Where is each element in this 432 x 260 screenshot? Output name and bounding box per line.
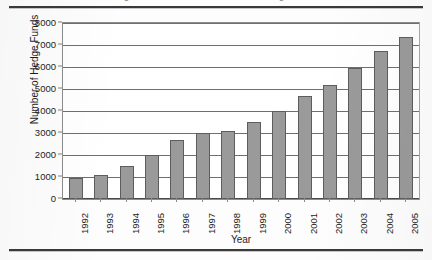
bar xyxy=(374,51,388,200)
top-horizontal-rule xyxy=(9,6,423,8)
bar xyxy=(145,155,159,199)
clipped-running-head: Figure 1. Growth in the number of hedge … xyxy=(0,0,432,3)
x-axis-tick-label: 1995 xyxy=(155,200,166,234)
x-axis-tick-mark xyxy=(100,198,101,202)
y-axis-tick-label: 7000 xyxy=(35,39,56,50)
bar xyxy=(399,37,413,199)
x-axis-tick-mark xyxy=(354,198,355,202)
x-axis-tick-label: 2004 xyxy=(384,200,395,234)
x-axis-tick-mark xyxy=(126,198,127,202)
x-axis-tick-mark xyxy=(151,198,152,202)
x-axis-tick-label: 1992 xyxy=(79,200,90,234)
bottom-horizontal-rule xyxy=(9,249,423,251)
y-axis-tick-label: 2000 xyxy=(35,149,56,160)
x-axis-tick-label: 1999 xyxy=(257,200,268,234)
y-axis-tick-label: 1000 xyxy=(35,171,56,182)
x-axis-tick-labels: 1992199319941995199619971998199920002001… xyxy=(62,202,420,236)
x-axis-tick-mark xyxy=(176,198,177,202)
x-axis-tick-mark xyxy=(380,198,381,202)
x-axis-tick-mark xyxy=(75,198,76,202)
x-axis-tick-label: 1993 xyxy=(104,200,115,234)
bar xyxy=(120,166,134,199)
x-axis-tick-mark xyxy=(329,198,330,202)
x-axis-title: Year xyxy=(62,234,420,245)
bar xyxy=(170,140,184,199)
bar xyxy=(221,131,235,199)
x-axis-tick-mark xyxy=(278,198,279,202)
figure-page: Figure 1. Growth in the number of hedge … xyxy=(0,0,432,260)
x-axis-tick-mark xyxy=(405,198,406,202)
bar xyxy=(196,133,210,199)
x-axis-tick-label: 2003 xyxy=(358,200,369,234)
y-axis-tick-label: 5000 xyxy=(35,83,56,94)
plot-area xyxy=(62,22,420,200)
y-axis-tick-label: 8000 xyxy=(35,17,56,28)
x-axis-tick-mark xyxy=(304,198,305,202)
bar-chart: Number of Hedge Funds 010002000300040005… xyxy=(0,8,432,248)
bar xyxy=(94,175,108,199)
bar xyxy=(247,122,261,199)
x-axis-tick-label: 1996 xyxy=(180,200,191,234)
bars-group xyxy=(63,23,419,199)
x-axis-tick-mark xyxy=(227,198,228,202)
y-axis-tick-label: 3000 xyxy=(35,127,56,138)
y-axis-tick-label: 6000 xyxy=(35,61,56,72)
x-axis-tick-label: 1998 xyxy=(231,200,242,234)
bar xyxy=(323,85,337,199)
x-axis-tick-label: 2002 xyxy=(333,200,344,234)
bar xyxy=(272,111,286,199)
y-axis-tick-label: 4000 xyxy=(35,105,56,116)
bar xyxy=(69,178,83,199)
y-axis-tick-labels: 010002000300040005000600070008000 xyxy=(18,22,56,200)
x-axis-tick-label: 2000 xyxy=(282,200,293,234)
bar xyxy=(298,96,312,199)
y-axis-tick-label: 0 xyxy=(51,193,56,204)
x-axis-tick-mark xyxy=(202,198,203,202)
x-axis-tick-mark xyxy=(253,198,254,202)
x-axis-tick-label: 1994 xyxy=(130,200,141,234)
x-axis-tick-label: 1997 xyxy=(206,200,217,234)
x-axis-tick-label: 2005 xyxy=(409,200,420,234)
bar xyxy=(348,68,362,199)
x-axis-tick-label: 2001 xyxy=(308,200,319,234)
